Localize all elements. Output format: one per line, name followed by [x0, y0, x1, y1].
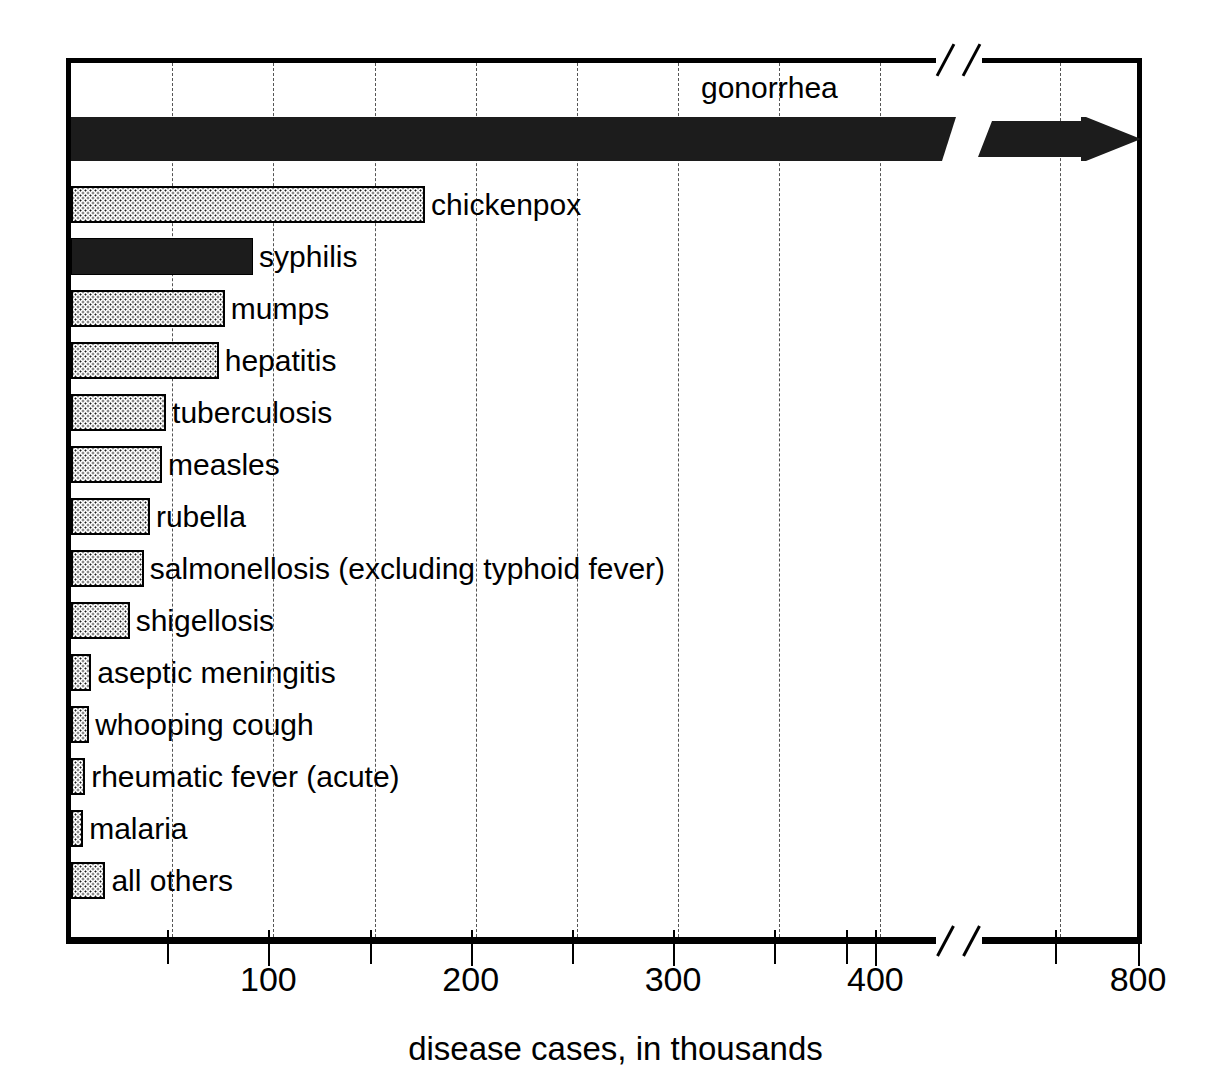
x-axis-minor-tick	[167, 930, 169, 964]
bar-series: gonorrheachickenpoxsyphilismumpshepatiti…	[71, 63, 1137, 937]
bar-label: malaria	[89, 810, 187, 847]
bar	[71, 498, 150, 535]
bar	[71, 342, 219, 379]
bar-row: hepatitis	[71, 335, 1147, 387]
x-axis-minor-tick	[572, 930, 574, 964]
bar-row: aseptic meningitis	[71, 647, 1147, 699]
bar	[71, 706, 89, 743]
bar-row: chickenpox	[71, 179, 1147, 231]
bar	[71, 186, 425, 223]
bar-row: tuberculosis	[71, 387, 1147, 439]
bar	[71, 810, 83, 847]
bar-label: rheumatic fever (acute)	[91, 758, 399, 795]
bar-gonorrhea-arrow-continuation	[978, 117, 1141, 161]
x-axis-minor-tick	[774, 930, 776, 964]
bar-row: syphilis	[71, 231, 1147, 283]
bar-row: mumps	[71, 283, 1147, 335]
x-axis-title: disease cases, in thousands	[0, 1030, 1231, 1068]
bar	[71, 446, 162, 483]
bar-row-gonorrhea: gonorrhea	[71, 117, 1147, 177]
bar-row: salmonellosis (excluding typhoid fever)	[71, 543, 1147, 595]
bar	[71, 862, 105, 899]
bar	[71, 758, 85, 795]
bar-gonorrhea	[71, 117, 956, 161]
bar-label: shigellosis	[136, 602, 274, 639]
bar-row: rubella	[71, 491, 1147, 543]
bar	[71, 654, 91, 691]
bar	[71, 394, 166, 431]
bar-label: chickenpox	[431, 186, 581, 223]
bar-label: all others	[111, 862, 233, 899]
bar-label: tuberculosis	[172, 394, 332, 431]
bar-label: whooping cough	[95, 706, 314, 743]
bar-label: syphilis	[259, 238, 357, 275]
bar-row: measles	[71, 439, 1147, 491]
bar	[71, 602, 130, 639]
x-axis-tick-label: 200	[442, 960, 499, 999]
x-axis-minor-tick	[370, 930, 372, 964]
x-axis-tick-label: 100	[240, 960, 297, 999]
x-axis-minor-tick	[1055, 930, 1057, 964]
x-axis-tick-label: 300	[645, 960, 702, 999]
bar	[71, 238, 253, 275]
bar-row: malaria	[71, 803, 1147, 855]
x-axis-tick-label: 400	[847, 960, 904, 999]
disease-cases-bar-chart: gonorrheachickenpoxsyphilismumpshepatiti…	[0, 0, 1231, 1082]
bar-label-gonorrhea: gonorrhea	[701, 69, 838, 106]
bar-row: rheumatic fever (acute)	[71, 751, 1147, 803]
bar-label: aseptic meningitis	[97, 654, 335, 691]
bar-label: hepatitis	[225, 342, 337, 379]
bar	[71, 550, 144, 587]
bar-row: whooping cough	[71, 699, 1147, 751]
plot-frame: gonorrheachickenpoxsyphilismumpshepatiti…	[66, 58, 1142, 942]
bar-row: all others	[71, 855, 1147, 907]
bar-label: rubella	[156, 498, 246, 535]
x-axis-minor-tick	[846, 930, 848, 964]
bar-label: mumps	[231, 290, 329, 327]
plot-area: gonorrheachickenpoxsyphilismumpshepatiti…	[71, 63, 1137, 937]
bar-row: shigellosis	[71, 595, 1147, 647]
x-axis: 100200300400800	[66, 938, 1142, 1008]
bar-label: measles	[168, 446, 280, 483]
bar	[71, 290, 225, 327]
bar-label: salmonellosis (excluding typhoid fever)	[150, 550, 665, 587]
x-axis-tick-label: 800	[1110, 960, 1167, 999]
